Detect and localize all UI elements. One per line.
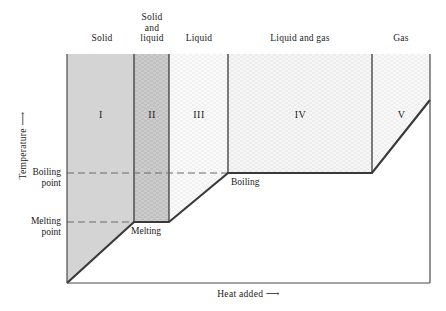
region-numeral-ii: II <box>136 109 168 120</box>
region-i-shading <box>67 54 134 283</box>
annotation-boiling: Boiling <box>231 177 260 187</box>
region-numeral-i: I <box>71 109 131 120</box>
region-numeral-iv: IV <box>230 109 371 120</box>
region-numeral-v: V <box>374 109 429 120</box>
y-tick-melting-point: Melting point <box>3 216 61 237</box>
heating-curve-plot <box>0 0 446 311</box>
region-numeral-iii: III <box>171 109 227 120</box>
region-ii-shading <box>134 54 169 222</box>
phase-header-liquid-and-gas: Liquid and gas <box>243 33 357 44</box>
phase-header-solid: Solid <box>73 33 131 44</box>
y-axis-title: Temperature ⟶ <box>17 91 28 201</box>
y-tick-boiling-point: Boiling point <box>3 167 61 188</box>
annotation-melting: Melting <box>131 226 161 236</box>
phase-header-gas: Gas <box>373 33 429 44</box>
phase-header-liquid: Liquid <box>170 33 228 44</box>
heating-curve-figure: Solid Solid and liquid Liquid Liquid and… <box>0 0 446 311</box>
x-axis-title: Heat added ⟶ <box>67 288 430 299</box>
